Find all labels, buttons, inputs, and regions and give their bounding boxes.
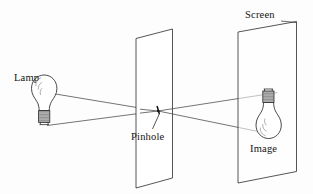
lamp-base xyxy=(39,111,50,125)
barrier-panel xyxy=(136,29,173,188)
label-lamp: Lamp xyxy=(14,72,39,83)
image-bulb-base xyxy=(263,89,274,103)
pinhole-camera-diagram: Lamp Pinhole Screen Image xyxy=(0,0,313,194)
label-screen: Screen xyxy=(245,9,275,20)
diagram-canvas xyxy=(0,0,313,194)
label-pinhole: Pinhole xyxy=(131,131,165,142)
label-image: Image xyxy=(250,143,277,154)
